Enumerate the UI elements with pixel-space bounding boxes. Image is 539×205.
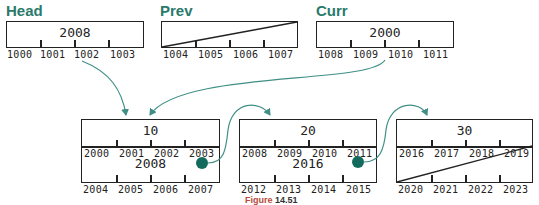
- node1-next-arrow: [208, 105, 270, 163]
- head-arrow: [82, 61, 126, 115]
- null-slash-icon: [397, 146, 532, 182]
- pointer-dot-icon: [196, 157, 208, 169]
- pointer-dot-icon: [352, 156, 364, 168]
- caption-number: 14.51: [275, 195, 298, 205]
- connector-overlay: [0, 0, 539, 205]
- curr-arrow: [150, 60, 385, 115]
- node2-next-arrow: [364, 105, 427, 162]
- figure-caption: Figure 14.51: [245, 195, 298, 205]
- null-slash-icon: [162, 22, 297, 47]
- caption-figure-word: Figure: [245, 195, 273, 205]
